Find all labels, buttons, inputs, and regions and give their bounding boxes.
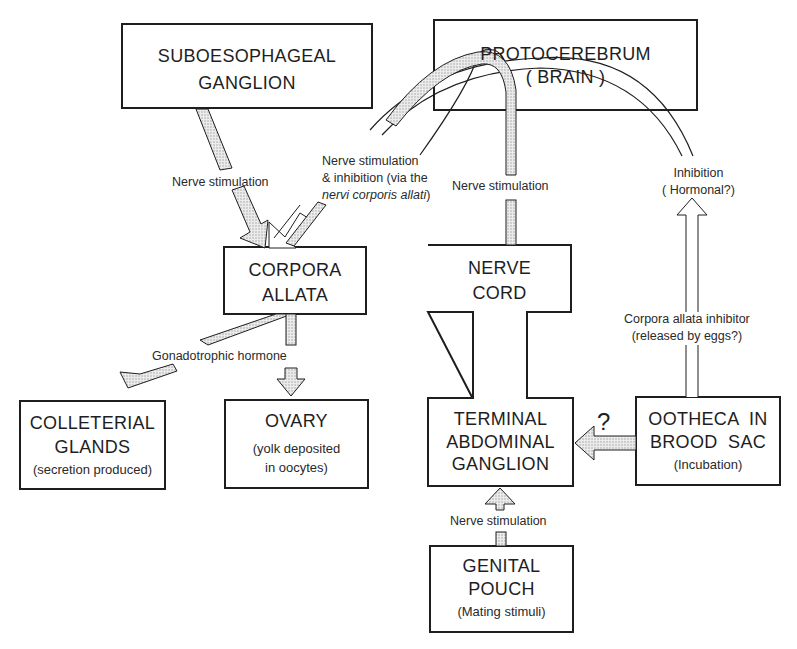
question-mark: ? (597, 408, 610, 436)
nerve-cord-label: NERVE CORD (428, 258, 571, 303)
label-inhibition: Inhibition ( Hormonal?) (662, 165, 735, 199)
label-ca-inhibitor: Corpora allata inhibitor (released by eg… (624, 311, 750, 345)
arrow-brain-to-cord (506, 200, 516, 245)
protocerebrum-label: PROTOCEREBRUM ( BRAIN ) (434, 44, 697, 87)
corpora-allata-label: CORPORA ALLATA (224, 260, 366, 305)
label-brain-to-cord: Nerve stimulation (452, 178, 549, 195)
ovary-label: OVARY (yolk deposited in oocytes) (225, 411, 368, 476)
terminal-abdominal-ganglion-label: TERMINAL ABDOMINAL GANGLION (428, 409, 573, 475)
colleterial-glands-label: COLLETERIAL GLANDS (secretion produced) (20, 413, 165, 478)
suboesophageal-ganglion-label: SUBOESOPHAGEAL GANGLION (122, 46, 372, 93)
genital-pouch-label: GENITAL POUCH (Mating stimuli) (430, 556, 573, 620)
label-genital-to-terminal: Nerve stimulation (450, 513, 547, 530)
label-gonadotrophic: Gonadotrophic hormone (152, 348, 287, 365)
label-sub-to-ca: Nerve stimulation (172, 174, 269, 191)
arrow-ootheca-inhibition (677, 198, 707, 397)
label-brain-to-ca: Nerve stimulation & inhibition (via the … (322, 153, 430, 204)
ootheca-label: OOTHECA IN BROOD SAC (Incubation) (636, 409, 780, 473)
